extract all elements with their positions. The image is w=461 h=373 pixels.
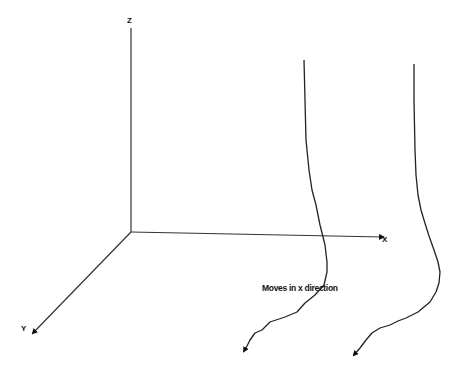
trajectory-curve-2 — [354, 64, 440, 355]
y-axis — [33, 232, 131, 333]
trajectory-curve-1 — [244, 60, 327, 351]
motion-annotation: Moves in x direction — [262, 284, 338, 293]
x-axis-label: X — [382, 236, 387, 244]
y-axis-label: Y — [21, 325, 26, 333]
diagram-canvas — [0, 0, 461, 373]
z-axis-label: Z — [127, 17, 132, 25]
x-axis — [131, 232, 383, 237]
